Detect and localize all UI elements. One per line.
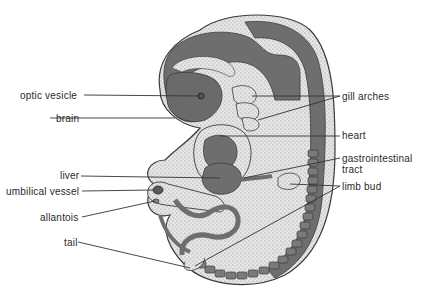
umbilical-vessel-shape bbox=[153, 186, 163, 194]
label-tract: tract bbox=[342, 164, 362, 175]
embryo-illustration bbox=[0, 0, 421, 299]
limb-bud-shape bbox=[278, 173, 300, 189]
label-optic-vesicle: optic vesicle bbox=[20, 90, 77, 101]
label-heart: heart bbox=[342, 130, 366, 141]
label-brain: brain bbox=[56, 113, 79, 124]
label-allantois: allantois bbox=[40, 212, 79, 223]
label-limb-bud: limb bud bbox=[342, 181, 381, 192]
label-umbilical-vessel: umbilical vessel bbox=[6, 186, 79, 197]
label-gill-arches: gill arches bbox=[342, 91, 389, 102]
label-liver: liver bbox=[60, 170, 79, 181]
label-tail: tail bbox=[64, 237, 78, 248]
liver-region bbox=[202, 163, 241, 194]
forebrain bbox=[166, 72, 222, 121]
label-gastrointestinal: gastrointestinal bbox=[342, 153, 412, 164]
embryo-diagram: optic vesicle brain liver umbilical vess… bbox=[0, 0, 421, 299]
